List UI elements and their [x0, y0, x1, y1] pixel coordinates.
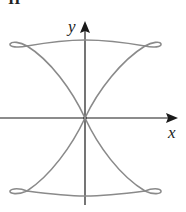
- loop-bottom-right: [145, 189, 161, 194]
- loop-top-right: [145, 42, 161, 47]
- loop-top-left: [10, 42, 27, 47]
- y-axis-label: y: [68, 18, 76, 35]
- top-band: [27, 40, 145, 46]
- loop-bottom-left: [10, 189, 27, 194]
- bottom-band: [27, 191, 145, 196]
- x-axis-label: x: [168, 124, 176, 141]
- parametric-curve-figure: [0, 0, 186, 212]
